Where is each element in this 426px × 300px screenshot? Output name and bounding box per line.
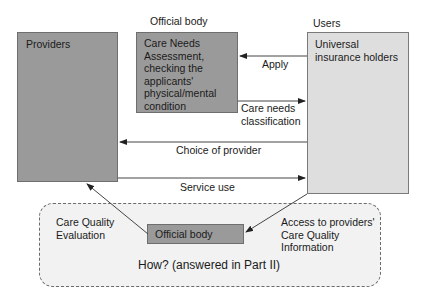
service-use-label: Service use <box>180 181 235 194</box>
text-line: Access to providers' <box>281 216 375 229</box>
text-line: Care needs <box>241 102 301 115</box>
choice-of-provider-label: Choice of provider <box>176 144 261 157</box>
text-line: Care Quality <box>56 216 114 229</box>
access-info-label: Access to providers' Care Quality Inform… <box>281 216 375 254</box>
care-quality-evaluation-label: Care Quality Evaluation <box>56 216 114 241</box>
apply-label: Apply <box>262 58 288 71</box>
text-line: Care Quality <box>281 229 375 242</box>
text-line: Evaluation <box>56 229 114 242</box>
text-line: classification <box>241 115 301 128</box>
care-needs-classification-label: Care needs classification <box>241 102 301 127</box>
question-label: How? (answered in Part II) <box>138 259 280 272</box>
text-line: Information <box>281 241 375 254</box>
